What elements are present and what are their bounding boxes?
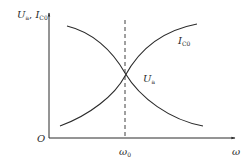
curve-ic0 — [60, 24, 197, 126]
omega0-label: ω0 — [119, 146, 131, 158]
x-axis-label: ω — [232, 146, 240, 157]
curve-label-ic0: IC0 — [177, 35, 191, 47]
curve-label-ua: Ua — [143, 73, 155, 85]
y-axis-label: Ua, IC0 — [17, 9, 48, 21]
resonance-diagram: Ua, IC0 O IC0 Ua ω0 ω — [0, 0, 250, 163]
origin-label: O — [37, 133, 45, 144]
